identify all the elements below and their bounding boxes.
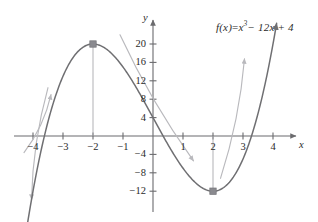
x-tick-label-4: 4	[270, 142, 275, 153]
y-tick-label--12: −12	[120, 186, 146, 197]
graph-canvas	[0, 0, 318, 222]
y-tick-label-20: 20	[126, 39, 146, 50]
axes-group	[14, 20, 296, 212]
equation-rest: − 12x + 4	[248, 21, 294, 33]
y-tick-label-4: 4	[126, 112, 146, 123]
y-tick-label--4: −4	[124, 149, 146, 160]
cubic-function-figure: −4 −3 −2 −1 1 2 3 4 20 16 12 8 4 −4 −8 −…	[0, 0, 318, 222]
y-tick-label-8: 8	[126, 94, 146, 105]
local-minimum-marker	[210, 188, 216, 194]
y-tick-label-16: 16	[126, 57, 146, 68]
x-axis-label: x	[299, 140, 304, 151]
equation-lhs: f(x)	[216, 21, 232, 33]
y-tick-label-12: 12	[126, 76, 146, 87]
equation-label: f(x)=x3− 12x + 4	[216, 22, 294, 33]
x-tick-label-3: 3	[240, 142, 245, 153]
local-maximum-marker	[90, 41, 96, 47]
x-tick-label-1: 1	[180, 142, 185, 153]
increasing-right-arrow	[221, 59, 245, 179]
y-axis-label: y	[143, 13, 148, 24]
x-tick-label--3: −3	[57, 142, 68, 153]
x-tick-label--4: −4	[27, 142, 38, 153]
y-tick-label--8: −8	[124, 168, 146, 179]
x-tick-label--2: −2	[87, 142, 98, 153]
function-curve-group	[26, 23, 276, 222]
x-tick-label-2: 2	[210, 142, 215, 153]
cubic-curve	[26, 23, 276, 222]
